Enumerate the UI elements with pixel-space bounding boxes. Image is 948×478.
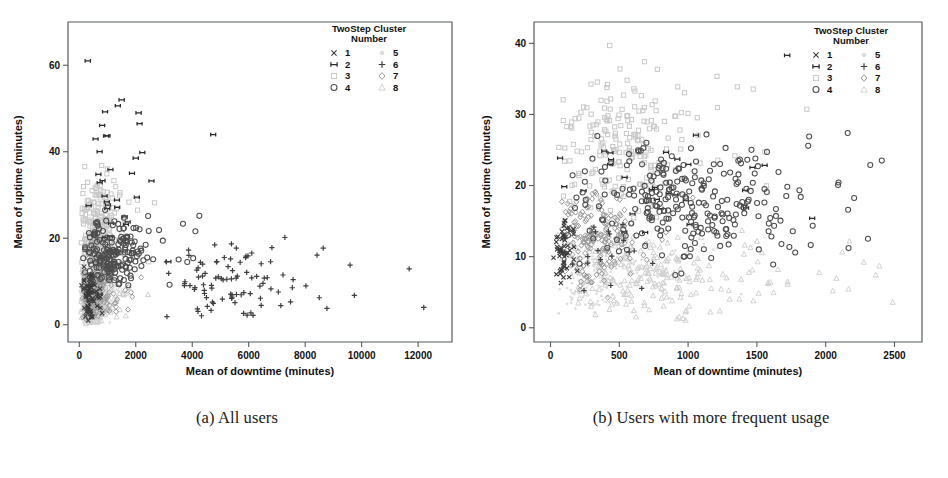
x-tick-label: 2000 [125,350,148,361]
y-axis-label: Mean of uptime (minutes) [12,115,24,249]
square-icon [331,73,336,78]
legend-item-label: 2 [827,61,832,72]
legend-item-6[interactable]: 6 [861,61,881,72]
legend-item-label: 5 [393,47,399,58]
x-axis-label: Mean of downtime (minutes) [186,365,335,377]
circle-icon [813,87,819,93]
x-tick-label: 0 [77,350,83,361]
triangle-faint-icon [379,84,385,90]
legend-item-2[interactable]: 2 [813,61,832,72]
x-tick-label: 6000 [238,350,261,361]
legend-item-7[interactable]: 7 [861,72,880,83]
y-tick-label: 40 [49,146,61,157]
series-6 [164,235,412,319]
legend-item-4[interactable]: 4 [813,84,833,95]
circle-icon [331,85,337,91]
legend-item-label: 7 [875,72,880,83]
legend-item-label: 5 [875,49,881,60]
legend-item-3[interactable]: 3 [813,72,832,83]
plus-icon [379,61,386,68]
scatter-plot-b[interactable]: 05001000150020002500Mean of downtime (mi… [474,0,948,400]
panel-b-frequent-users: 05001000150020002500Mean of downtime (mi… [474,0,948,400]
y-tick-label: 0 [520,322,526,333]
scatter-plot-a[interactable]: 020004000600080001000012000Mean of downt… [0,0,474,400]
x-axis: 05001000150020002500Mean of downtime (mi… [548,342,906,377]
y-tick-label: 20 [49,233,61,244]
bowtie-icon [331,62,337,66]
bowtie-icon [813,64,819,68]
diamond-icon [379,73,385,80]
dot-faint-icon [380,51,384,55]
legend-item-label: 2 [345,59,350,70]
y-axis-label: Mean of uptime (minutes) [480,115,492,249]
x-axis: 020004000600080001000012000Mean of downt… [77,342,433,377]
data-points-layer [551,43,895,322]
x-tick-label: 2500 [883,350,906,361]
legend-item-label: 1 [345,47,351,58]
x-cross-icon [813,52,818,57]
legend-item-label: 7 [393,70,398,81]
y-tick-label: 20 [515,180,527,191]
x-tick-label: 8000 [294,350,317,361]
x-tick-label: 2000 [815,350,838,361]
legend-item-label: 8 [875,84,880,95]
legend-item-1[interactable]: 1 [331,47,351,58]
x-tick-label: 500 [611,350,628,361]
legend-item-3[interactable]: 3 [331,70,350,81]
y-tick-label: 60 [49,60,61,71]
y-axis: 0204060Mean of uptime (minutes) [12,60,68,330]
triangle-faint-icon [861,86,867,92]
y-tick-label: 40 [515,38,527,49]
legend-item-label: 3 [345,70,350,81]
x-tick-label: 10000 [348,350,376,361]
caption-panel-a: (a) All users [0,408,474,448]
legend[interactable]: TwoStep ClusterNumber12345678 [813,25,889,95]
legend-item-6[interactable]: 6 [379,59,399,70]
legend-item-label: 8 [393,82,398,93]
y-tick-label: 10 [515,251,527,262]
y-axis: 010203040Mean of uptime (minutes) [480,38,534,333]
y-tick-label: 0 [54,319,60,330]
legend-title-line2: Number [351,33,387,44]
panel-a-all-users: 020004000600080001000012000Mean of downt… [0,0,474,400]
x-tick-label: 12000 [404,350,432,361]
dot-faint-icon [862,53,866,57]
notable-points [85,59,426,310]
legend-item-label: 4 [345,82,351,93]
data-points-layer [79,59,427,325]
x-tick-label: 1000 [677,350,700,361]
legend-item-8[interactable]: 8 [379,82,398,93]
legend-item-8[interactable]: 8 [861,84,880,95]
legend[interactable]: TwoStep ClusterNumber12345678 [331,23,407,93]
legend-item-label: 1 [827,49,833,60]
legend-item-5[interactable]: 5 [862,49,881,60]
x-cross-icon [331,50,336,55]
caption-panel-b: (b) Users with more frequent usage [474,408,948,448]
legend-item-7[interactable]: 7 [379,70,398,81]
square-icon [813,75,818,80]
x-axis-label: Mean of downtime (minutes) [654,365,803,377]
legend-item-label: 6 [393,59,398,70]
legend-item-label: 4 [827,84,833,95]
legend-item-label: 6 [875,61,880,72]
series-7 [559,189,695,300]
plot-frame [534,22,922,342]
x-tick-label: 1500 [746,350,769,361]
plus-icon [861,63,868,70]
legend-title-line2: Number [833,35,869,46]
x-tick-label: 4000 [181,350,204,361]
x-tick-label: 0 [548,350,554,361]
y-tick-label: 30 [515,109,527,120]
legend-item-2[interactable]: 2 [331,59,350,70]
legend-item-1[interactable]: 1 [813,49,833,60]
legend-item-5[interactable]: 5 [380,47,399,58]
legend-item-label: 3 [827,72,832,83]
diamond-icon [861,75,867,82]
figure-two-scatter-panels: 020004000600080001000012000Mean of downt… [0,0,948,478]
legend-item-4[interactable]: 4 [331,82,351,93]
